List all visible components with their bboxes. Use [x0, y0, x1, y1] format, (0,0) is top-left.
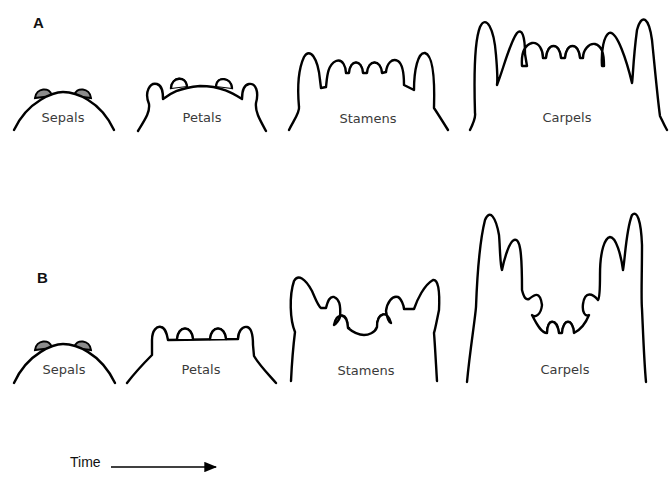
stage-label: Carpels — [540, 362, 589, 377]
stage-label: Petals — [182, 362, 221, 377]
time-axis: Time — [70, 454, 216, 470]
stage-label: Sepals — [43, 362, 86, 377]
panel-a-petals-meristem: Petals — [138, 79, 266, 131]
panel-b-petals-meristem: Petals — [127, 327, 276, 383]
panel-b-sepals-meristem: Sepals — [14, 341, 115, 383]
stage-label: Stamens — [340, 111, 397, 126]
stage-label: Carpels — [542, 110, 591, 125]
panel-label-b: B — [37, 269, 48, 286]
panel-b-stamens-meristem: Stamens — [291, 278, 440, 381]
floral-development-diagram: A Sepals Petals Stamens Carpels B Se — [0, 0, 671, 484]
stage-label: Stamens — [338, 363, 395, 378]
stage-label: Petals — [183, 110, 222, 125]
panel-a-carpels-meristem: Carpels — [470, 19, 667, 130]
time-label: Time — [70, 454, 101, 470]
stage-label: Sepals — [42, 110, 85, 125]
panel-a-stamens-meristem: Stamens — [289, 53, 448, 130]
panel-b-carpels-meristem: Carpels — [467, 214, 646, 382]
panel-label-a: A — [33, 14, 44, 31]
panel-a-sepals-meristem: Sepals — [14, 89, 114, 130]
